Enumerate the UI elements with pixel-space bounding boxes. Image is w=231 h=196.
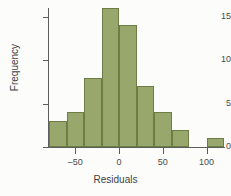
y-axis-tick-mark: [43, 104, 49, 105]
y-axis-tick-mark: [43, 147, 49, 148]
x-axis-label: Residuals: [0, 174, 231, 185]
x-axis-tick-mark: [75, 148, 76, 154]
histogram-bar: [119, 25, 137, 147]
y-axis-label: Frequency: [9, 23, 20, 113]
plot-area: [49, 8, 224, 147]
histogram-bar: [102, 8, 120, 147]
x-axis-tick-mark: [207, 148, 208, 154]
y-axis-ticks: [0, 0, 43, 9]
histogram-figure: Frequency Residuals 051015–50050100: [0, 0, 231, 196]
y-axis-tick-label: 10: [211, 55, 231, 64]
histogram-bar: [154, 112, 172, 147]
y-axis-tick-label: 15: [211, 12, 231, 21]
y-axis-tick-mark: [43, 17, 49, 18]
x-axis-tick-mark: [163, 148, 164, 154]
y-axis-tick-label: 0: [211, 142, 231, 151]
histogram-bar: [172, 130, 190, 147]
y-axis-tick-mark: [43, 60, 49, 61]
x-axis-tick-mark: [119, 148, 120, 154]
histogram-bar: [137, 86, 155, 147]
histogram-bar: [84, 78, 102, 148]
x-axis-tick-label: 0: [102, 157, 136, 167]
y-axis-tick-label: 5: [211, 99, 231, 108]
histogram-bar: [49, 121, 67, 147]
x-axis-tick-label: –50: [58, 157, 92, 167]
histogram-bars: [49, 8, 224, 147]
x-axis-tick-label: 50: [146, 157, 180, 167]
histogram-bar: [67, 112, 85, 147]
x-axis-tick-label: 100: [190, 157, 224, 167]
